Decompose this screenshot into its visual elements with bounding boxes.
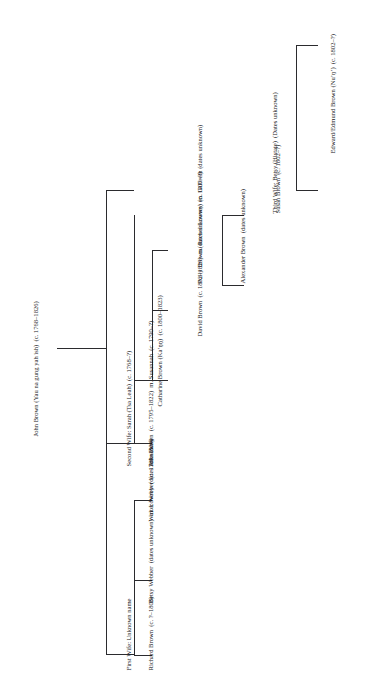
root-spine-line [106,190,107,655]
node-root: John Brown (Yau na gung yah ish) (c. 176… [33,300,40,438]
node-polly-brown: Polly Brown (dates unknown) m. Gilbreth … [197,123,204,285]
susan-brown-line [296,190,318,191]
edward-brown-line [296,45,318,46]
wife3-children-spine [296,45,297,190]
node-betsy-webber-dates: (dates unknown) [148,518,155,565]
node-susan-brown-name: Susan Brown [275,176,282,215]
node-david-brown-name: David Brown [197,299,204,338]
node-john-brown-jr: John Brown (c. 1795–1822) m. Susannah (c… [148,319,155,468]
alexander-entry-line [222,285,244,286]
node-walter-webber-name: Walter Webber [148,481,155,523]
wife2-children-spine [134,215,135,444]
node-edward-brown-dates: (c. 1802–?) [330,33,337,66]
node-john-brown-jr-marriage-dates: (c. 1790–?) [148,319,155,352]
node-root-name-line: John Brown (Yau na gung yah ish) [33,343,40,438]
node-edward-brown: Edward/Edmund Brown (Nuʼŋʼ) (c. 1802–?) [330,33,337,155]
node-wife2: Second Wife: Sarah (Tsa Leah) (c. 1768–?… [126,349,133,468]
root-connector-line [57,348,106,349]
polly-brown-line [152,250,168,251]
wife1-children-spine [134,500,135,655]
node-alexander-brown-name: Alexander Brown [240,235,247,285]
family-tree-figure: John Brown (Yau na gung yah ish) (c. 176… [0,0,382,688]
node-john-brown-jr-marriage: m. Susannah [148,352,155,389]
node-john-brown-jr-dates: (c. 1795–1822) [148,389,155,432]
node-edward-brown-name-line: Edward/Edmund Brown (Nuʼŋʼ) [330,66,337,155]
wife3-branch-line [106,190,134,191]
node-wife1: First Wife: Unknown name [126,597,133,672]
node-catharine-brown: Catharine Brown (Kaʼŋŋ) (c. 1800–1823) [157,294,164,408]
node-susan-brown-dates: (c. 1802–?) [275,143,282,176]
node-polly-brown-line1: Polly Brown (dates unknown) [197,202,204,285]
alexander-branch-spine [222,215,223,285]
node-susan-brown: Susan Brown (c. 1802–?) [275,143,282,215]
node-john-brown-jr-name: John Brown [148,433,155,468]
node-wife2-name-line: Second Wife: Sarah (Tsa Leah) [126,383,133,469]
node-wife2-dates: (c. 1768–?) [126,349,133,382]
node-wife1-label: First Wife: Unknown name [126,597,133,672]
node-catharine-brown-name-line: Catharine Brown (Kaʼŋŋ) [157,337,164,408]
node-alexander-brown: Alexander Brown (dates unknown) [240,187,247,285]
node-betsy-webber-name: Betsy Webber [148,565,155,605]
node-alexander-brown-dates: (dates unknown) [240,187,247,234]
node-richard-brown-name: Richard Brown [148,628,155,672]
node-polly-brown-line2: m. Gilbreth (dates unknown) [197,123,204,202]
node-root-dates: (c. 1768–1826) [33,300,40,343]
node-catharine-brown-dates: (c. 1800–1823) [157,294,164,337]
node-wife3-dates: (Dates unknown) [272,91,279,140]
node-richard-brown: Richard Brown (c. ?–1808) [148,595,155,672]
